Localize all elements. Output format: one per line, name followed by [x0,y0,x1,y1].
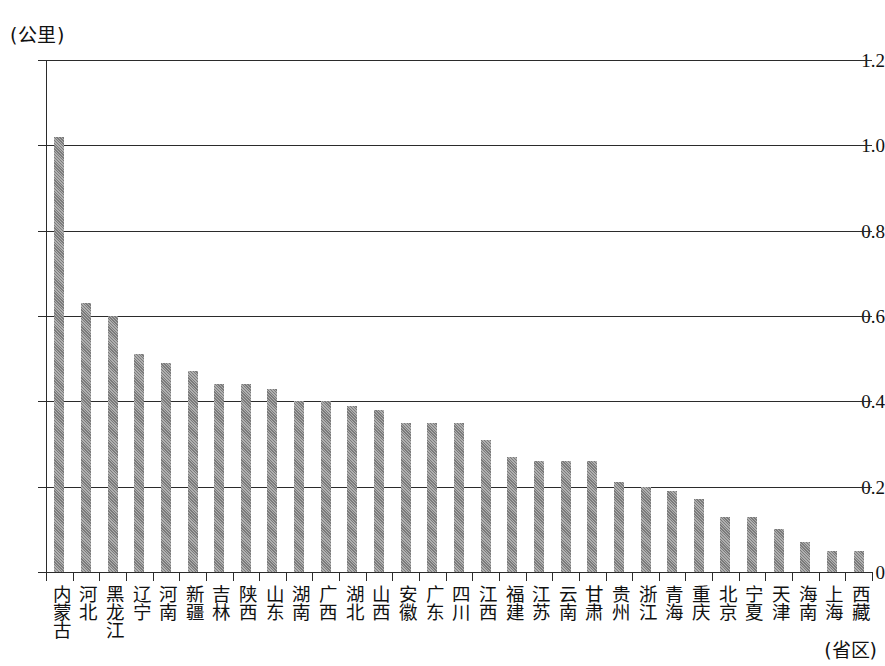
x-axis-category-label: 青海 [663,585,682,621]
x-axis-tick-mark [659,572,660,581]
x-axis-tick-mark [286,572,287,581]
y-axis-tick-mark [38,60,46,61]
x-axis-tick-mark [739,572,740,581]
x-axis-category-label: 北京 [716,585,735,621]
bar [827,551,837,572]
x-axis-tick-mark [153,572,154,581]
bar [667,491,677,572]
gridline [46,60,872,61]
x-axis-tick-mark [339,572,340,581]
y-axis-tick-mark [38,401,46,402]
x-axis-category-label: 黑龙江 [103,585,122,639]
x-axis-category-label: 海南 [796,585,815,621]
x-axis-tick-mark [206,572,207,581]
bar [241,384,251,572]
bar [347,406,357,572]
x-axis-tick-mark [126,572,127,581]
x-axis-tick-mark [99,572,100,581]
x-axis-category-label: 山东 [263,585,282,621]
bar [800,542,810,572]
bar [507,457,517,572]
y-axis-tick-mark [38,145,46,146]
bar [161,363,171,572]
x-axis-tick-mark [685,572,686,581]
x-axis-line [46,572,872,573]
x-axis-category-label: 辽宁 [130,585,149,621]
bar [401,423,411,572]
bar [614,482,624,572]
x-axis-category-label: 吉林 [210,585,229,621]
x-axis-tick-mark [73,572,74,581]
chart-page: (公里) 00.20.40.60.81.01.2 内蒙古河北黑龙江辽宁河南新疆吉… [0,0,885,666]
x-axis-tick-mark [579,572,580,581]
bar [188,371,198,572]
bar [481,440,491,572]
x-axis-tick-mark [606,572,607,581]
x-axis-category-label: 福建 [503,585,522,621]
x-axis-category-label: 浙江 [636,585,655,621]
x-axis-category-label: 湖南 [290,585,309,621]
bar [641,487,651,572]
gridline [46,145,872,146]
gridline [46,316,872,317]
x-axis-category-label: 河南 [157,585,176,621]
x-axis-category-label: 重庆 [690,585,709,621]
y-axis-tick-mark [38,231,46,232]
bar [694,499,704,572]
x-axis-category-label: 四川 [450,585,469,621]
x-axis-tick-mark [366,572,367,581]
x-axis-category-label: 上海 [823,585,842,621]
y-axis-tick-mark [38,487,46,488]
x-axis-category-label: 天津 [769,585,788,621]
x-axis-category-label: 江苏 [530,585,549,621]
x-axis-category-label: 广西 [317,585,336,621]
bar [427,423,437,572]
x-axis-category-label: 广东 [423,585,442,621]
x-axis-category-label: 山西 [370,585,389,621]
x-axis-tick-mark [46,572,47,581]
x-axis-category-label: 宁夏 [743,585,762,621]
bar [534,461,544,572]
bar [108,316,118,572]
bar [374,410,384,572]
x-axis-tick-mark [819,572,820,581]
x-axis-tick-mark [632,572,633,581]
x-axis-tick-mark [179,572,180,581]
x-axis-category-label: 云南 [556,585,575,621]
bar [294,401,304,572]
x-axis-category-label: 西藏 [849,585,868,621]
x-axis-category-label: 安徽 [396,585,415,621]
y-axis-tick-mark [38,572,46,573]
gridline [46,231,872,232]
x-axis-category-label: 河北 [77,585,96,621]
bar [267,389,277,572]
y-axis-tick-mark [38,316,46,317]
x-axis-tick-mark [499,572,500,581]
x-axis-category-label: 陕西 [237,585,256,621]
x-axis-tick-mark [552,572,553,581]
bar [134,354,144,572]
x-axis-tick-mark [259,572,260,581]
x-axis-tick-mark [765,572,766,581]
x-axis-category-label: 甘肃 [583,585,602,621]
x-axis-tick-mark [392,572,393,581]
plot-area [46,60,872,572]
bar [720,517,730,572]
bar [747,517,757,572]
x-axis-tick-mark [233,572,234,581]
bar [774,529,784,572]
bar [321,401,331,572]
bar [454,423,464,572]
x-axis-tick-mark [526,572,527,581]
bar [854,551,864,572]
bar [214,384,224,572]
bar [54,137,64,572]
x-axis-tick-mark [712,572,713,581]
x-axis-tick-mark [419,572,420,581]
bar [561,461,571,572]
x-axis-category-label: 贵州 [610,585,629,621]
bar [81,303,91,572]
x-axis-tick-mark [472,572,473,581]
bar [587,461,597,572]
x-axis-tick-mark [792,572,793,581]
